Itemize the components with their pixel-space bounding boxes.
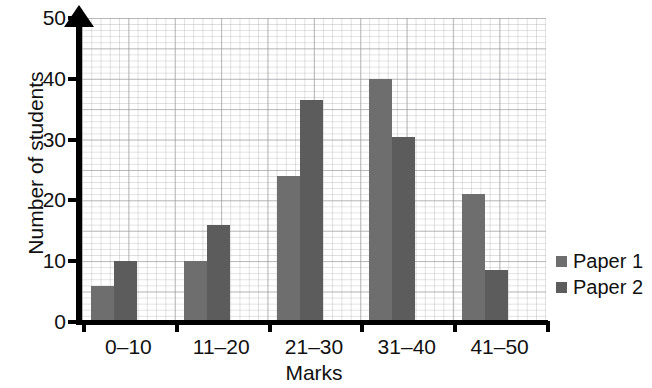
bar-paper-1-4 bbox=[462, 194, 485, 322]
x-tick-1 bbox=[175, 321, 179, 332]
paper-2-swatch-icon bbox=[556, 282, 567, 293]
x-tick-label-1: 11–20 bbox=[173, 336, 269, 358]
bar-paper-2-1 bbox=[207, 225, 230, 322]
x-tick-0 bbox=[82, 321, 86, 332]
y-tick-label-50: 50 bbox=[22, 7, 66, 28]
y-tick-30 bbox=[68, 138, 77, 142]
bar-paper-2-4 bbox=[485, 270, 508, 322]
legend-label-paper-2: Paper 2 bbox=[573, 277, 643, 298]
x-tick-end bbox=[546, 321, 550, 332]
bar-paper-2-0 bbox=[114, 261, 137, 322]
bar-chart: 01020304050 0–1011–2021–3031–4041–50 Num… bbox=[0, 0, 652, 388]
x-axis-title: Marks bbox=[82, 362, 546, 384]
bar-paper-1-0 bbox=[91, 286, 114, 322]
x-tick-label-3: 31–40 bbox=[359, 336, 455, 358]
x-tick-4 bbox=[453, 321, 457, 332]
bar-paper-2-3 bbox=[392, 137, 415, 322]
x-axis-line bbox=[76, 320, 548, 325]
x-tick-3 bbox=[360, 321, 364, 332]
y-tick-10 bbox=[68, 259, 77, 263]
bar-paper-1-1 bbox=[184, 261, 207, 322]
y-axis-line bbox=[76, 22, 82, 324]
x-tick-label-4: 41–50 bbox=[452, 336, 548, 358]
y-tick-label-0: 0 bbox=[22, 311, 66, 332]
legend-label-paper-1: Paper 1 bbox=[573, 251, 643, 272]
legend-item-paper-2[interactable]: Paper 2 bbox=[556, 274, 643, 300]
y-axis-title: Number of students bbox=[25, 43, 47, 283]
y-tick-50 bbox=[68, 16, 77, 20]
x-tick-label-2: 21–30 bbox=[266, 336, 362, 358]
y-tick-0 bbox=[68, 320, 77, 324]
bar-paper-2-2 bbox=[300, 100, 323, 322]
x-tick-label-0: 0–10 bbox=[80, 336, 176, 358]
paper-1-swatch-icon bbox=[556, 256, 567, 267]
y-tick-20 bbox=[68, 198, 77, 202]
bar-paper-1-3 bbox=[369, 79, 392, 322]
legend-item-paper-1[interactable]: Paper 1 bbox=[556, 248, 643, 274]
chart-legend: Paper 1 Paper 2 bbox=[556, 248, 643, 300]
bar-paper-1-2 bbox=[277, 176, 300, 322]
x-tick-2 bbox=[268, 321, 272, 332]
y-tick-40 bbox=[68, 77, 77, 81]
